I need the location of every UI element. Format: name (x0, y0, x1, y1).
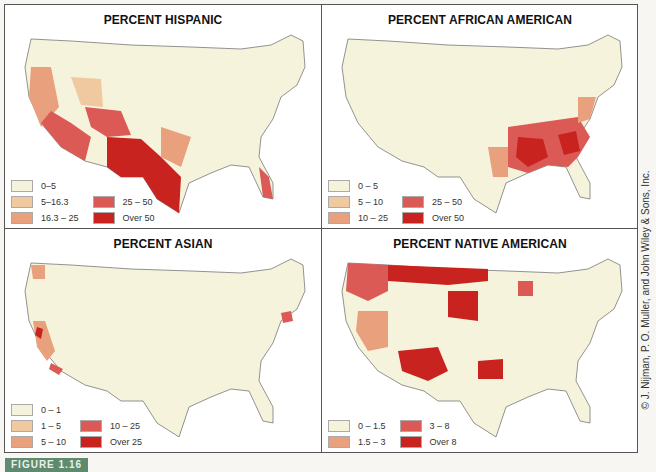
legend-item: 0 – 1.5 (328, 419, 386, 432)
legend-item: Over 8 (400, 435, 457, 448)
legend-swatch (11, 180, 33, 192)
legend-item: 5–16.3 (11, 195, 79, 208)
legend-item: 1 – 5 (11, 419, 66, 432)
legend-item: 1.5 – 3 (328, 435, 386, 448)
legend-item: 10 – 25 (80, 419, 142, 432)
legend-swatch (11, 212, 33, 224)
legend-swatch (11, 420, 33, 432)
legend-item: 25 – 50 (402, 195, 464, 208)
legend-swatch (11, 196, 33, 208)
panel-african-american: PERCENT AFRICAN AMERICAN 0 – 5 5 – 10 25… (322, 5, 638, 229)
legend-swatch (402, 196, 424, 208)
panel-title: PERCENT AFRICAN AMERICAN (322, 13, 638, 27)
panel-title: PERCENT HISPANIC (5, 13, 321, 27)
legend-swatch (80, 420, 102, 432)
panel-title: PERCENT NATIVE AMERICAN (322, 237, 638, 251)
legend-item: 5 – 10 (11, 435, 66, 448)
legend-item: Over 25 (80, 435, 142, 448)
panel-hispanic: PERCENT HISPANIC 0–5 5–16.3 25 – 50 16.3… (5, 5, 322, 229)
figure-frame: PERCENT HISPANIC 0–5 5–16.3 25 – 50 16.3… (4, 4, 638, 453)
copyright-credit: © J. Nijman, P. O. Muller, and John Wile… (636, 110, 654, 470)
legend-item: 5 – 10 (328, 195, 388, 208)
legend: 0 – 1 1 – 5 10 – 25 5 – 10 Over 25 (11, 403, 142, 448)
legend-item: 0 – 1 (11, 403, 66, 416)
legend-item: Over 50 (402, 211, 464, 224)
legend-swatch (402, 212, 424, 224)
legend-swatch (328, 420, 350, 432)
legend-item: 25 – 50 (93, 195, 155, 208)
legend-swatch (400, 420, 422, 432)
legend-swatch (11, 436, 33, 448)
panel-asian: PERCENT ASIAN 0 – 1 1 – 5 10 – 25 5 – 10… (5, 229, 322, 452)
legend-swatch (400, 436, 422, 448)
legend: 0 – 5 5 – 10 25 – 50 10 – 25 Over 50 (328, 179, 464, 224)
figure-label: FIGURE 1.16 (5, 458, 88, 472)
panel-title: PERCENT ASIAN (5, 237, 321, 251)
legend-item: 0–5 (11, 179, 79, 192)
legend-swatch (328, 436, 350, 448)
legend-swatch (328, 212, 350, 224)
legend-item: 10 – 25 (328, 211, 388, 224)
legend-swatch (11, 404, 33, 416)
legend-item: Over 50 (93, 211, 155, 224)
legend-swatch (328, 196, 350, 208)
legend-item: 0 – 5 (328, 179, 388, 192)
legend-swatch (80, 436, 102, 448)
legend-swatch (93, 196, 115, 208)
legend-swatch (93, 212, 115, 224)
panel-native-american: PERCENT NATIVE AMERICAN 0 – 1.5 3 – 8 1.… (322, 229, 638, 452)
legend-swatch (328, 180, 350, 192)
legend: 0–5 5–16.3 25 – 50 16.3 – 25 Over 50 (11, 179, 155, 224)
legend-item: 16.3 – 25 (11, 211, 79, 224)
legend: 0 – 1.5 3 – 8 1.5 – 3 Over 8 (328, 419, 457, 448)
legend-item: 3 – 8 (400, 419, 457, 432)
